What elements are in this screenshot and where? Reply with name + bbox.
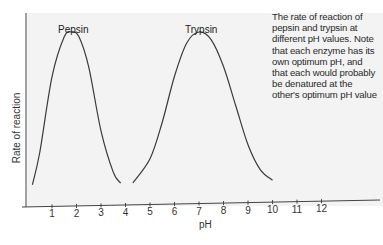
x-axis-label: pH bbox=[199, 219, 212, 230]
x-tick-label: 3 bbox=[93, 207, 109, 218]
x-tick-label: 7 bbox=[191, 206, 207, 217]
x-tick-label: 5 bbox=[142, 206, 158, 217]
x-tick-label: 6 bbox=[167, 206, 183, 217]
x-tick-label: 2 bbox=[69, 208, 85, 219]
figure-caption: The rate of reaction of pepsin and tryps… bbox=[272, 11, 380, 101]
y-axis-label: Rate of reaction bbox=[11, 88, 22, 168]
x-tick-label: 4 bbox=[118, 207, 134, 218]
x-tick-label: 12 bbox=[314, 203, 330, 214]
x-tick-label: 9 bbox=[240, 205, 256, 216]
trypsin-label: Trypsin bbox=[185, 24, 217, 35]
pepsin-label: Pepsin bbox=[58, 24, 89, 35]
x-tick-label: 1 bbox=[44, 208, 60, 219]
x-tick-label: 8 bbox=[216, 205, 232, 216]
x-tick-label: 11 bbox=[289, 204, 305, 215]
x-tick-label: 10 bbox=[265, 204, 281, 215]
